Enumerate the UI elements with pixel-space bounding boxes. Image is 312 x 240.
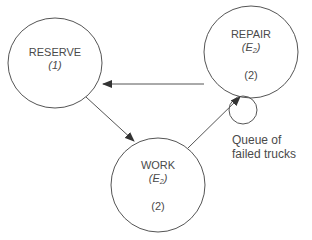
work-dist: (E2) bbox=[118, 172, 198, 188]
reserve-label: RESERVE (1) bbox=[15, 46, 95, 72]
work-count: (2) bbox=[118, 200, 198, 213]
edge-reserve-to-work bbox=[86, 97, 134, 141]
work-label: WORK (E2) (2) bbox=[118, 159, 198, 213]
repair-title: REPAIR bbox=[211, 28, 291, 41]
repair-label: REPAIR (E2) (2) bbox=[211, 28, 291, 82]
queue-label-line2: failed trucks bbox=[232, 147, 296, 161]
queue-label: Queue of failed trucks bbox=[232, 133, 296, 161]
queue-label-line1: Queue of bbox=[232, 133, 296, 147]
reserve-count: (1) bbox=[15, 59, 95, 72]
queue-node bbox=[229, 96, 257, 124]
repair-count: (2) bbox=[211, 69, 291, 82]
work-title: WORK bbox=[118, 159, 198, 172]
reserve-title: RESERVE bbox=[15, 46, 95, 59]
repair-dist: (E2) bbox=[211, 41, 291, 57]
